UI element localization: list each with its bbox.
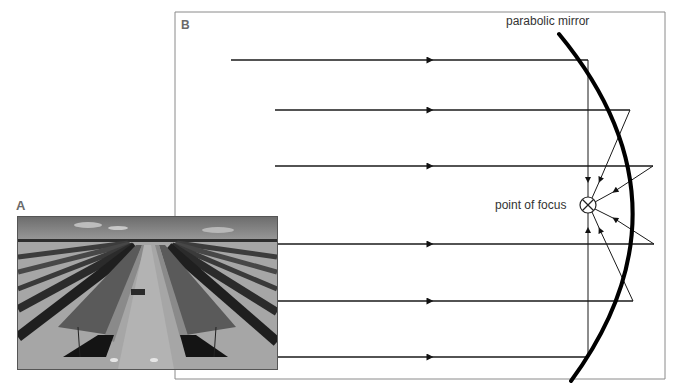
mirror-label: parabolic mirror xyxy=(506,14,589,28)
panel-b-label: B xyxy=(181,18,190,32)
focus-label: point of focus xyxy=(495,198,566,212)
panel-a-label: A xyxy=(16,198,25,213)
solar-trough-photo xyxy=(17,216,278,370)
reflected-rays xyxy=(588,60,654,357)
focus-point-icon xyxy=(580,197,596,213)
